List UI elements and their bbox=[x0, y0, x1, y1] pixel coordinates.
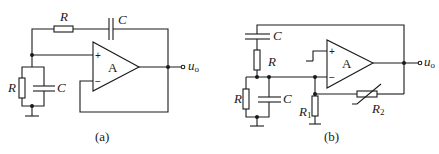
label-b-shunt-C: C bbox=[283, 91, 292, 106]
node-b-output bbox=[402, 61, 406, 65]
label-b-series-C: C bbox=[273, 28, 282, 43]
circuit-b: C R R C R1 R2 bbox=[233, 25, 436, 144]
label-b-shunt-R: R bbox=[233, 91, 242, 106]
label-b-series-R: R bbox=[267, 54, 276, 69]
opamp-a-label: A bbox=[108, 60, 118, 75]
node-b-left bbox=[255, 75, 259, 79]
opamp-a-minus: − bbox=[95, 76, 101, 87]
caption-a: (a) bbox=[95, 129, 109, 144]
opamp-a-plus: + bbox=[95, 50, 101, 61]
wire-a-top-left bbox=[32, 29, 54, 55]
resistor-b-series bbox=[254, 50, 260, 70]
opamp-b-minus: − bbox=[329, 72, 335, 83]
label-b-R1: R1 bbox=[298, 104, 311, 120]
node-a-output bbox=[166, 65, 170, 69]
label-a-shunt-R: R bbox=[7, 80, 16, 95]
label-a-output: uo bbox=[188, 58, 200, 74]
caption-b: (b) bbox=[324, 129, 339, 144]
resistor-b-shunt bbox=[243, 89, 249, 109]
resistor-b-R1 bbox=[312, 96, 318, 116]
label-b-output: uo bbox=[424, 54, 436, 70]
opamp-b-plus: + bbox=[329, 46, 335, 57]
label-a-shunt-C: C bbox=[57, 80, 66, 95]
circuit-diagram: R C R C A + − uo (a) bbox=[0, 0, 439, 154]
resistor-a-series bbox=[54, 26, 73, 32]
opamp-b-label: A bbox=[342, 56, 352, 71]
resistor-a-shunt bbox=[19, 78, 25, 98]
circuit-a: R C R C A + − uo (a) bbox=[7, 9, 200, 144]
label-a-series-C: C bbox=[118, 12, 127, 27]
label-b-R2: R2 bbox=[371, 101, 384, 117]
label-a-series-R: R bbox=[59, 9, 68, 24]
wire-b-plus bbox=[313, 51, 327, 61]
terminal-b-output bbox=[418, 61, 422, 65]
terminal-a-output bbox=[181, 65, 185, 69]
